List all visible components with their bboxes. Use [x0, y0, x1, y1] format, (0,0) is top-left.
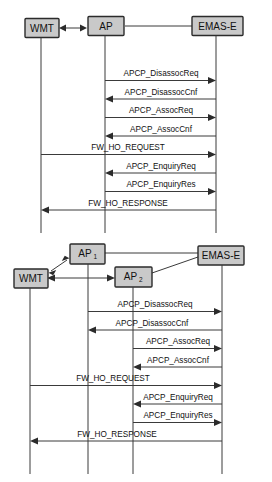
diagram-top: WMT AP EMAS-E APCP_DisassocReq APCP_Disa…	[0, 0, 272, 241]
message-label: APCP_DisassocReq	[117, 300, 193, 309]
message-3-top[interactable]: APCP_AssocReq	[105, 106, 216, 121]
message-label: APCP_EnquiryReq	[126, 162, 196, 171]
message-arrowhead-left	[30, 438, 38, 445]
participant-label: AP	[124, 271, 138, 282]
message-8-top[interactable]: FW_HO_RESPONSE	[41, 199, 216, 214]
message-label: FW_HO_RESPONSE	[77, 430, 157, 439]
message-7-bottom[interactable]: APCP_EnquiryRes	[133, 411, 222, 426]
message-arrowhead-left	[105, 170, 113, 177]
participant-label-subscript: 1	[94, 253, 98, 260]
message-6-bottom[interactable]: APCP_EnquiryReq	[133, 393, 222, 408]
diagram-bottom: WMT AP 1 AP 2 EMAS-E APCP_DisassocReq AP…	[0, 241, 272, 482]
link-wmt-ap1-arrow-lower	[49, 270, 57, 275]
message-arrowhead-left	[133, 401, 141, 408]
message-5-bottom[interactable]: FW_HO_REQUEST	[30, 374, 222, 389]
message-arrowhead-right	[208, 77, 216, 84]
participant-label-subscript: 2	[139, 276, 143, 283]
message-arrowhead-right	[208, 114, 216, 121]
message-arrowhead-right	[214, 382, 222, 389]
link-ap2-emase-line	[152, 257, 198, 273]
message-4-bottom[interactable]: APCP_AssocCnf	[133, 356, 222, 371]
participant-ap2-bottom[interactable]: AP 2	[115, 267, 152, 287]
message-8-bottom[interactable]: FW_HO_RESPONSE	[30, 430, 222, 445]
message-arrowhead-right	[214, 419, 222, 426]
participant-label: AP	[99, 21, 113, 32]
message-2-top[interactable]: APCP_DisassocCnf	[105, 88, 216, 103]
message-3-bottom[interactable]: APCP_AssocReq	[133, 337, 222, 352]
message-6-top[interactable]: APCP_EnquiryReq	[105, 162, 216, 177]
message-label: APCP_DisassocCnf	[116, 319, 190, 328]
message-label: APCP_EnquiryReq	[143, 393, 213, 402]
message-4-top[interactable]: APCP_AssocCnf	[105, 125, 216, 140]
message-label: APCP_EnquiryRes	[126, 180, 195, 189]
link-wmt-ap1-arrow-upper	[62, 256, 70, 261]
message-arrowhead-left	[88, 327, 96, 334]
participant-emase-top[interactable]: EMAS-E	[192, 17, 243, 36]
sequence-diagram-page: WMT AP EMAS-E APCP_DisassocReq APCP_Disa…	[0, 0, 272, 482]
participant-wmt-bottom[interactable]: WMT	[14, 269, 48, 288]
message-label: FW_HO_REQUEST	[76, 374, 150, 383]
message-label: APCP_AssocReq	[146, 337, 211, 346]
participant-label: EMAS-E	[202, 250, 241, 261]
message-label: APCP_AssocReq	[129, 106, 194, 115]
participant-label: WMT	[30, 23, 54, 34]
message-arrowhead-right	[208, 151, 216, 158]
link-wmt-ap-arrow-left	[59, 25, 66, 32]
message-label: FW_HO_REQUEST	[91, 143, 165, 152]
participant-ap-top[interactable]: AP	[88, 17, 124, 36]
message-label: APCP_AssocCnf	[130, 125, 193, 134]
message-arrowhead-left	[41, 207, 49, 214]
message-arrowhead-left	[105, 133, 113, 140]
participant-emase-bottom[interactable]: EMAS-E	[198, 246, 244, 265]
message-arrowhead-right	[214, 345, 222, 352]
participant-label: WMT	[19, 273, 43, 284]
message-label: FW_HO_RESPONSE	[88, 199, 168, 208]
header-links-top	[59, 25, 192, 32]
participant-label: EMAS-E	[198, 21, 237, 32]
message-arrowhead-right	[208, 188, 216, 195]
message-arrowhead-left	[133, 364, 141, 371]
message-5-top[interactable]: FW_HO_REQUEST	[41, 143, 216, 158]
link-wmt-ap1-line	[51, 260, 67, 271]
participant-label: AP	[78, 248, 92, 259]
message-arrowhead-left	[105, 96, 113, 103]
message-7-top[interactable]: APCP_EnquiryRes	[105, 180, 216, 195]
participant-ap1-bottom[interactable]: AP 1	[70, 244, 105, 264]
message-arrowhead-right	[214, 308, 222, 315]
link-wmt-ap2-arrow-right	[107, 275, 115, 282]
message-label: APCP_DisassocCnf	[125, 88, 199, 97]
message-2-bottom[interactable]: APCP_DisassocCnf	[88, 319, 222, 334]
message-1-bottom[interactable]: APCP_DisassocReq	[88, 300, 222, 315]
link-wmt-ap-arrow-right	[80, 25, 87, 32]
message-label: APCP_DisassocReq	[123, 69, 199, 78]
message-1-top[interactable]: APCP_DisassocReq	[105, 69, 216, 84]
participant-wmt-top[interactable]: WMT	[25, 19, 59, 38]
message-label: APCP_EnquiryRes	[143, 411, 212, 420]
message-label: APCP_AssocCnf	[147, 356, 210, 365]
